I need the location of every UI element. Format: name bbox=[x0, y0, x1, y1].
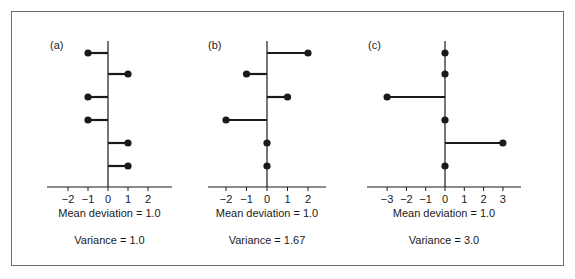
mean-deviation-label: Mean deviation = 1.0 bbox=[58, 207, 160, 219]
x-tick-label: −3 bbox=[381, 193, 394, 205]
data-point bbox=[243, 70, 250, 77]
data-point bbox=[124, 139, 131, 146]
x-tick-label: 0 bbox=[264, 193, 270, 205]
data-point bbox=[499, 139, 506, 146]
x-tick-label: 2 bbox=[145, 193, 151, 205]
variance-label: Variance = 1.0 bbox=[74, 234, 144, 246]
data-point bbox=[124, 70, 131, 77]
data-point bbox=[441, 116, 448, 123]
x-tick-label: −1 bbox=[240, 193, 253, 205]
panel-b: (b) −2−1012Mean deviation = 1.0Variance … bbox=[208, 39, 326, 246]
variance-label: Variance = 1.67 bbox=[229, 234, 306, 246]
x-tick-label: −2 bbox=[220, 193, 233, 205]
x-tick-label: −1 bbox=[82, 193, 95, 205]
panel-a: (a) −2−1012Mean deviation = 1.0Variance … bbox=[47, 39, 172, 246]
data-point bbox=[441, 49, 448, 56]
data-point bbox=[441, 162, 448, 169]
x-tick-label: 0 bbox=[105, 193, 111, 205]
data-point bbox=[384, 93, 391, 100]
data-point bbox=[84, 116, 91, 123]
variance-label: Variance = 3.0 bbox=[409, 234, 479, 246]
data-point bbox=[84, 93, 91, 100]
panel-label: (a) bbox=[50, 39, 63, 51]
x-tick-label: 2 bbox=[481, 193, 487, 205]
x-tick-label: −1 bbox=[419, 193, 432, 205]
data-point bbox=[441, 70, 448, 77]
x-tick-label: 3 bbox=[500, 193, 506, 205]
x-tick-label: 1 bbox=[284, 193, 290, 205]
x-tick-label: 1 bbox=[125, 193, 131, 205]
data-point bbox=[263, 139, 270, 146]
x-tick-label: −2 bbox=[62, 193, 75, 205]
data-point bbox=[222, 116, 229, 123]
x-tick-label: 2 bbox=[305, 193, 311, 205]
mean-deviation-label: Mean deviation = 1.0 bbox=[216, 207, 318, 219]
mean-deviation-label: Mean deviation = 1.0 bbox=[393, 207, 495, 219]
data-point bbox=[84, 49, 91, 56]
panel-c: (c) −3−2−10123Mean deviation = 1.0Varian… bbox=[367, 39, 521, 246]
x-tick-label: 1 bbox=[461, 193, 467, 205]
deviation-figure: (a) −2−1012Mean deviation = 1.0Variance … bbox=[0, 0, 575, 279]
x-tick-label: 0 bbox=[442, 193, 448, 205]
panel-label: (b) bbox=[208, 39, 221, 51]
panel-label: (c) bbox=[368, 39, 381, 51]
data-point bbox=[284, 93, 291, 100]
data-point bbox=[124, 162, 131, 169]
x-tick-label: −2 bbox=[400, 193, 413, 205]
data-point bbox=[263, 162, 270, 169]
data-point bbox=[304, 49, 311, 56]
